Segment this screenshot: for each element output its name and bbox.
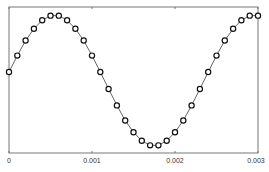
data-point-marker xyxy=(181,118,186,123)
data-point-marker xyxy=(131,130,136,135)
data-point-marker xyxy=(15,53,20,58)
data-point-marker xyxy=(48,13,53,18)
data-line xyxy=(9,16,258,146)
x-axis-tick-labels: 00.0010.0020.003 xyxy=(7,157,265,164)
data-point-marker xyxy=(164,138,169,143)
data-point-marker xyxy=(114,103,119,108)
x-tick-label: 0.001 xyxy=(83,157,101,164)
x-tick-label: 0.003 xyxy=(247,157,265,164)
data-point-marker xyxy=(65,18,70,23)
data-point-marker xyxy=(197,86,202,91)
data-markers xyxy=(6,13,260,148)
x-tick-label: 0.002 xyxy=(166,157,184,164)
data-point-marker xyxy=(189,103,194,108)
data-point-marker xyxy=(139,138,144,143)
data-point-marker xyxy=(40,18,45,23)
data-point-marker xyxy=(239,18,244,23)
data-point-marker xyxy=(231,26,236,31)
data-point-marker xyxy=(56,13,61,18)
data-point-marker xyxy=(6,69,11,74)
data-point-marker xyxy=(206,69,211,74)
data-point-marker xyxy=(81,38,86,43)
data-point-marker xyxy=(148,143,153,148)
data-point-marker xyxy=(23,38,28,43)
data-point-marker xyxy=(172,130,177,135)
data-point-marker xyxy=(98,69,103,74)
data-point-marker xyxy=(214,53,219,58)
data-point-marker xyxy=(123,118,128,123)
x-tick-label: 0 xyxy=(7,157,11,164)
data-point-marker xyxy=(89,53,94,58)
data-point-marker xyxy=(31,26,36,31)
data-point-marker xyxy=(222,38,227,43)
data-point-marker xyxy=(247,13,252,18)
data-point-marker xyxy=(156,143,161,148)
data-point-marker xyxy=(255,13,260,18)
data-point-marker xyxy=(73,26,78,31)
data-point-marker xyxy=(106,86,111,91)
line-chart: 00.0010.0020.003 xyxy=(0,0,269,172)
